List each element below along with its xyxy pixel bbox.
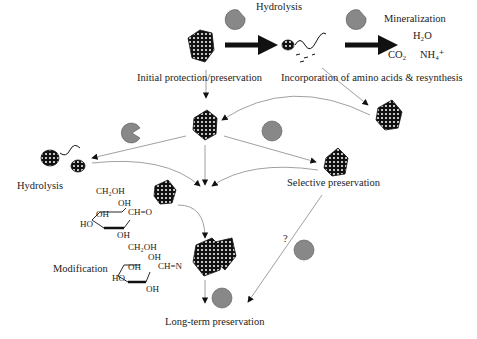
sugar2-oh2: OH bbox=[128, 263, 141, 272]
enzyme-ball-1 bbox=[262, 121, 282, 141]
label-hydrolysis-left: Hydrolysis bbox=[17, 181, 63, 192]
label-long-term: Long-term preservation bbox=[165, 317, 264, 328]
protein-hydrolysis-left-1 bbox=[41, 150, 59, 166]
label-hydrolysis-top: Hydrolysis bbox=[256, 2, 302, 13]
sugar2-ch2oh: CH₂OH bbox=[128, 243, 157, 252]
sugar2-chn: CH=N bbox=[158, 262, 182, 271]
label-mineralization: Mineralization bbox=[384, 14, 446, 25]
protein-initial bbox=[188, 30, 214, 62]
sugar2-oh3: OH bbox=[146, 285, 159, 294]
label-question: ? bbox=[283, 234, 288, 245]
protein-hydrolyzed bbox=[282, 40, 294, 50]
enzyme-ball-2 bbox=[294, 240, 314, 260]
sugar2-ho: HO bbox=[112, 274, 125, 283]
label-nh4: NH₄⁺ bbox=[420, 50, 444, 61]
enzyme-pacman-3 bbox=[121, 123, 140, 143]
protein-hydrolysis-left-2 bbox=[71, 160, 85, 172]
sugar1-cho: CH=O bbox=[128, 208, 152, 217]
sugar1-ho: HO bbox=[80, 220, 93, 229]
label-co2: CO₂ bbox=[388, 50, 406, 61]
label-h2o: H₂O bbox=[413, 31, 432, 42]
label-incorporation: Incorporation of amino acids & resynthes… bbox=[281, 73, 463, 84]
label-modification: Modification bbox=[53, 264, 108, 275]
sugar1-ch2oh: CH₂OH bbox=[96, 187, 125, 196]
protein-sugar bbox=[154, 180, 176, 204]
label-initial-protection: Initial protection/preservation bbox=[137, 73, 262, 84]
protein-resynthesis bbox=[376, 100, 402, 130]
sugar1-oh3: OH bbox=[117, 231, 130, 240]
protein-center bbox=[193, 110, 217, 140]
enzyme-pacman-1 bbox=[225, 10, 245, 30]
enzyme-pacman-2 bbox=[346, 10, 366, 30]
label-selective-preservation: Selective preservation bbox=[287, 178, 380, 189]
sugar1-oh2: OH bbox=[96, 210, 109, 219]
enzyme-ball-3 bbox=[212, 288, 232, 308]
protein-selective bbox=[324, 148, 348, 176]
